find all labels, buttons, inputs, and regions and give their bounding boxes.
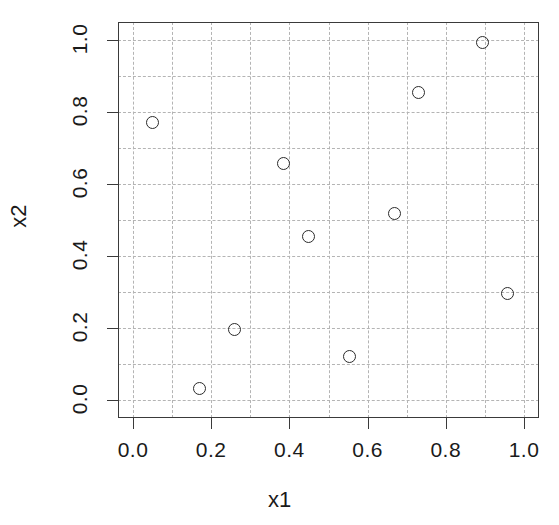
y-tick-mark	[107, 400, 118, 401]
data-point	[412, 86, 425, 99]
y-tick-label: 0.2	[68, 307, 92, 347]
x-tick-label: 0.6	[333, 438, 403, 462]
y-tick-label: 0.8	[68, 91, 92, 131]
x-tick-label: 0.2	[176, 438, 246, 462]
data-point	[501, 287, 514, 300]
y-tick-mark	[107, 40, 118, 41]
y-tick-mark	[107, 328, 118, 329]
data-point	[228, 323, 241, 336]
y-tick-mark	[107, 112, 118, 113]
x-tick-mark	[289, 418, 290, 429]
data-point	[277, 157, 290, 170]
x-tick-label: 0.0	[98, 438, 168, 462]
x-tick-mark	[133, 418, 134, 429]
y-tick-label: 0.0	[68, 379, 92, 419]
x-tick-label: 1.0	[489, 438, 559, 462]
x-tick-mark	[446, 418, 447, 429]
data-point	[302, 230, 315, 243]
y-tick-mark	[107, 256, 118, 257]
scatter-plot-figure: 0.00.20.40.60.81.0 0.00.20.40.60.81.0 x1…	[0, 0, 559, 525]
x-tick-label: 0.8	[411, 438, 481, 462]
data-point	[343, 350, 356, 363]
data-point	[193, 382, 206, 395]
y-axis-title: x2	[6, 186, 32, 246]
y-tick-label: 1.0	[68, 19, 92, 59]
y-tick-label: 0.6	[68, 163, 92, 203]
x-tick-mark	[368, 418, 369, 429]
x-tick-label: 0.4	[254, 438, 324, 462]
x-tick-mark	[524, 418, 525, 429]
x-axis-title: x1	[0, 487, 559, 513]
y-tick-label: 0.4	[68, 235, 92, 275]
x-tick-mark	[211, 418, 212, 429]
y-tick-mark	[107, 184, 118, 185]
plot-frame-border	[118, 22, 539, 418]
